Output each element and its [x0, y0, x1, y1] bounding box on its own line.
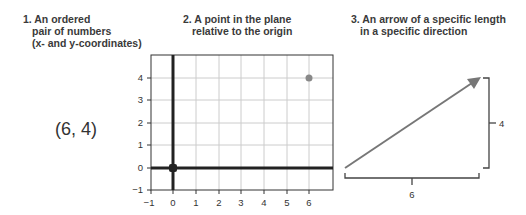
svg-text:3: 3 — [138, 94, 143, 105]
svg-text:4: 4 — [138, 72, 143, 83]
coordinate-plane: 4 3 2 1 0 −1 −1 0 1 2 3 4 5 6 — [132, 55, 333, 208]
x-tick-labels: −1 0 1 2 3 4 5 6 — [144, 197, 312, 208]
svg-text:2: 2 — [216, 197, 221, 208]
svg-text:−1: −1 — [132, 184, 143, 195]
arrowhead-icon — [467, 77, 481, 89]
svg-text:0: 0 — [170, 197, 175, 208]
point-marker — [306, 75, 313, 82]
svg-text:5: 5 — [284, 197, 289, 208]
svg-text:4: 4 — [261, 197, 266, 208]
y-tick-labels: 4 3 2 1 0 −1 — [132, 72, 143, 195]
svg-text:−1: −1 — [144, 197, 155, 208]
dx-label: 6 — [409, 189, 414, 200]
diagram-canvas: 4 3 2 1 0 −1 −1 0 1 2 3 4 5 6 4 6 — [0, 0, 526, 215]
vertical-bracket — [483, 78, 489, 168]
vector-arrow-shaft — [345, 83, 472, 168]
horizontal-bracket — [345, 173, 479, 178]
grid-lines — [151, 55, 333, 190]
origin-marker — [169, 164, 177, 172]
svg-text:0: 0 — [138, 162, 143, 173]
svg-text:2: 2 — [138, 117, 143, 128]
dy-label: 4 — [499, 118, 504, 129]
svg-text:1: 1 — [193, 197, 198, 208]
svg-text:1: 1 — [138, 139, 143, 150]
svg-text:6: 6 — [306, 197, 311, 208]
vector-diagram: 4 6 — [345, 77, 504, 200]
svg-text:3: 3 — [238, 197, 243, 208]
